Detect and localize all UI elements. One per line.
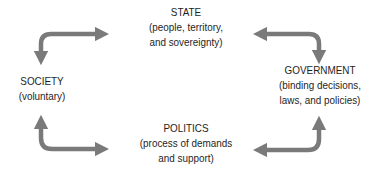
node-government-title: GOVERNMENT [279,63,361,78]
node-politics: POLITICS (process of demands and support… [140,121,232,166]
node-state-line-1: (people, territory, [149,20,223,35]
node-government: GOVERNMENT (binding decisions, laws, and… [279,63,361,108]
political-system-diagram: STATE (people, territory, and sovereignt… [0,0,375,174]
node-society: SOCIETY (voluntary) [19,74,66,104]
node-state-line-2: and sovereignty) [149,35,223,50]
node-politics-line-1: (process of demands [140,136,232,151]
node-society-line-1: (voluntary) [19,89,66,104]
node-society-title: SOCIETY [19,74,66,89]
node-politics-title: POLITICS [140,121,232,136]
node-government-line-2: laws, and policies) [279,93,361,108]
arrow-society-state [41,34,102,58]
node-government-line-1: (binding decisions, [279,78,361,93]
arrow-politics-government [260,123,319,150]
node-state-title: STATE [149,5,223,20]
arrow-society-politics [41,122,102,149]
node-politics-line-2: and support) [140,151,232,166]
node-state: STATE (people, territory, and sovereignt… [149,5,223,50]
arrow-state-government [260,34,319,57]
